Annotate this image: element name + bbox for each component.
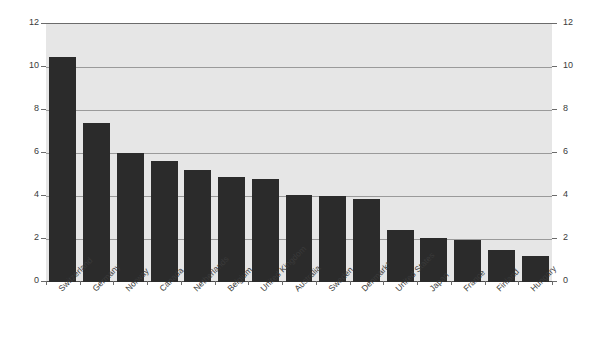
y-axis-label-left-8: 8	[34, 104, 39, 113]
y-axis-label-right-6: 6	[563, 147, 568, 156]
x-axis-tick-2	[113, 281, 114, 285]
y-axis-label-right-10: 10	[563, 61, 573, 70]
y-axis-label-right-2: 2	[563, 233, 568, 242]
y-axis-label-right-0: 0	[563, 276, 568, 285]
y-axis-label-left-2: 2	[34, 233, 39, 242]
bar	[49, 57, 76, 282]
y-axis-tick-right-12	[552, 23, 557, 24]
x-axis-tick-1	[80, 281, 81, 285]
y-axis-tick-right-10	[552, 66, 557, 67]
x-axis-tick-12	[451, 281, 452, 285]
x-axis-tick-5	[215, 281, 216, 285]
bar	[252, 179, 279, 282]
x-axis-tick-4	[181, 281, 182, 285]
bar-chart: 002244668810101212SwitzerlandGermanyNorw…	[0, 0, 598, 356]
x-axis-tick-15	[552, 281, 553, 285]
x-axis-tick-9	[350, 281, 351, 285]
x-axis-tick-7	[282, 281, 283, 285]
y-axis-label-right-4: 4	[563, 190, 568, 199]
y-axis-label-left-12: 12	[29, 18, 39, 27]
x-axis-tick-6	[248, 281, 249, 285]
x-axis-tick-11	[417, 281, 418, 285]
y-axis-label-right-12: 12	[563, 18, 573, 27]
y-axis-label-left-0: 0	[34, 276, 39, 285]
plot-area	[46, 23, 552, 282]
bar	[184, 170, 211, 282]
y-axis-label-right-8: 8	[563, 104, 568, 113]
x-axis-tick-14	[518, 281, 519, 285]
x-axis-tick-0	[46, 281, 47, 285]
y-axis-label-left-6: 6	[34, 147, 39, 156]
x-axis-tick-3	[147, 281, 148, 285]
y-axis-tick-left-8	[41, 109, 46, 110]
y-axis-label-left-10: 10	[29, 61, 39, 70]
y-axis-tick-right-2	[552, 238, 557, 239]
y-axis-tick-right-4	[552, 195, 557, 196]
x-axis-tick-10	[383, 281, 384, 285]
y-axis-tick-left-2	[41, 238, 46, 239]
y-axis-tick-left-10	[41, 66, 46, 67]
bar	[117, 153, 144, 282]
y-axis-label-left-4: 4	[34, 190, 39, 199]
bars-layer	[46, 24, 552, 282]
y-axis-tick-left-4	[41, 195, 46, 196]
y-axis-tick-right-8	[552, 109, 557, 110]
y-axis-tick-right-6	[552, 152, 557, 153]
x-axis-tick-8	[316, 281, 317, 285]
y-axis-tick-left-12	[41, 23, 46, 24]
x-axis-tick-13	[485, 281, 486, 285]
bar	[151, 161, 178, 282]
y-axis-tick-left-6	[41, 152, 46, 153]
